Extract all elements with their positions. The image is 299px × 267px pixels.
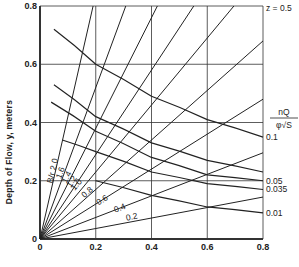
y-tick-label: 0.8 [24, 1, 37, 11]
y-tick-label: 0.6 [24, 59, 37, 69]
right-curve-label: 0.035 [266, 184, 288, 194]
y-axis-label: Depth of Flow, y, meters [4, 100, 14, 205]
x-tick-label: 0.6 [201, 242, 214, 252]
x-tick-label: 0.4 [145, 242, 158, 252]
y-tick-label: 0.2 [24, 176, 37, 186]
x-tick-label: 0.8 [257, 242, 270, 252]
parameter-label: nQ φ√S [270, 107, 298, 130]
x-tick-label: 0.2 [89, 242, 102, 252]
chart: 00.20.40.60.800.20.40.60.8 B/r 2.01.61.4… [0, 0, 299, 267]
x-tick-label: 0 [37, 242, 42, 252]
y-tick-label: 0.4 [24, 118, 37, 128]
parameter-curve [54, 29, 263, 137]
parameter-curve [51, 102, 263, 181]
ratio-line-label: 0.8 [79, 184, 95, 200]
right-curve-label: 0.1 [266, 132, 278, 142]
right-curve-label: 0.01 [266, 208, 283, 218]
parameter-numerator: nQ [278, 107, 290, 117]
z-label: z = 0.5 [266, 3, 292, 13]
parameter-denominator: φ√S [276, 120, 292, 130]
ratio-line-label: 0.6 [94, 192, 110, 207]
y-tick-label: 0 [32, 234, 37, 244]
grid [40, 6, 263, 239]
